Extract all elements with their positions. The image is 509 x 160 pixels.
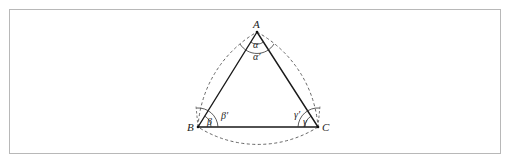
- angle-gamma-label: γ: [303, 116, 308, 127]
- vertex-b-dot: [197, 126, 200, 129]
- arc-bc: [198, 127, 318, 144]
- vertex-c-label: C: [322, 121, 330, 133]
- reuleaux-diagram: A B C α α′ β β′ γ γ′: [0, 0, 509, 160]
- vertex-a-dot: [256, 31, 259, 34]
- angle-beta-prime-label: β′: [220, 110, 229, 121]
- angle-beta-label: β: [206, 116, 212, 127]
- vertex-a-label: A: [252, 18, 260, 30]
- vertex-c-dot: [317, 126, 320, 129]
- angle-alpha-prime-label: α′: [253, 51, 261, 62]
- vertex-b-label: B: [187, 121, 194, 133]
- angle-alpha-label: α: [253, 39, 259, 50]
- angle-gamma-prime-label: γ′: [294, 109, 301, 120]
